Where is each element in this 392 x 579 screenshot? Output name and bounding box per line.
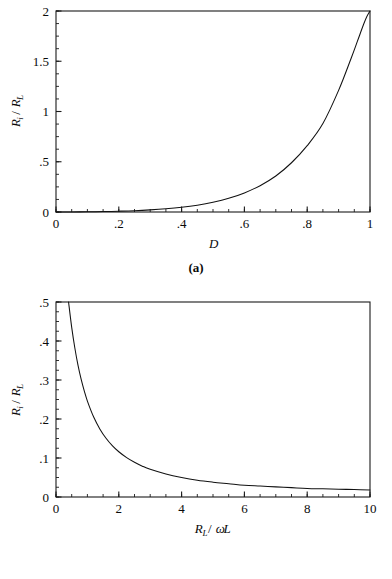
x-axis-title: RL/ωL (194, 521, 231, 538)
y-tick-label: .2 (39, 412, 49, 427)
data-curve (69, 302, 370, 490)
y-axis-title: Ri/RL (8, 384, 25, 417)
y-tick-label: 1 (43, 104, 50, 119)
chart-a: 0.2.4.6.810.511.52Ri/RLD (0, 0, 392, 290)
x-axis-title-part: / (208, 521, 212, 536)
y-axis-title-part: L (15, 95, 25, 101)
y-tick-label: .5 (39, 295, 49, 310)
y-tick-label: .1 (39, 451, 49, 466)
x-tick-label: 2 (116, 501, 123, 516)
x-tick-label: 0 (53, 501, 60, 516)
x-axis-title-part: D (208, 236, 219, 251)
x-tick-label: 8 (304, 501, 311, 516)
x-axis-title-part: R (194, 521, 203, 536)
x-tick-label: 4 (178, 501, 185, 516)
y-axis-title: Ri/RL (8, 95, 25, 128)
y-axis-title-part: / (8, 400, 23, 404)
x-tick-label: .2 (114, 216, 124, 231)
x-axis-title-part: L (223, 521, 231, 536)
plot-frame (56, 302, 370, 497)
x-tick-label: .4 (177, 216, 187, 231)
y-axis-title-part: i (15, 117, 25, 120)
y-tick-label: 1.5 (33, 54, 49, 69)
x-axis-title: D (208, 236, 219, 251)
x-tick-label: 6 (241, 501, 248, 516)
y-tick-label: 0 (43, 205, 50, 220)
x-tick-label: 0 (53, 216, 60, 231)
x-tick-label: 1 (367, 216, 374, 231)
data-curve (56, 11, 370, 212)
figure-panel-b: 02468100.1.2.3.4.5Ri/RLRL/ωL (b) (0, 290, 392, 579)
y-tick-label: 2 (43, 4, 50, 19)
y-axis-title-part: L (15, 384, 25, 390)
y-tick-label: .3 (39, 373, 49, 388)
y-axis-title-part: / (8, 111, 23, 115)
y-axis-title-part: i (15, 406, 25, 409)
chart-b: 02468100.1.2.3.4.5Ri/RLRL/ωL (0, 290, 392, 551)
y-tick-label: .5 (39, 154, 49, 169)
x-tick-label: .6 (240, 216, 250, 231)
figure-panel-a: 0.2.4.6.810.511.52Ri/RLD (a) (0, 0, 392, 290)
x-tick-label: 10 (364, 501, 377, 516)
x-axis-title-part: L (202, 528, 208, 538)
plot-frame (56, 11, 370, 212)
x-tick-label: .8 (302, 216, 312, 231)
panel-a-caption: (a) (0, 260, 392, 276)
y-tick-label: 0 (43, 490, 50, 505)
y-tick-label: .4 (39, 334, 49, 349)
